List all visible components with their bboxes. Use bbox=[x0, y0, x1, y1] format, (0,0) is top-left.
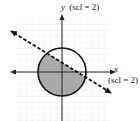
x-axis-scale: (scl = 2) bbox=[108, 75, 138, 85]
coordinate-graph: y (scl = 2) x (scl = 2) bbox=[0, 0, 140, 121]
y-axis-arrow-up-icon bbox=[60, 14, 65, 20]
y-axis-label: y bbox=[60, 2, 65, 12]
y-axis-scale: (scl = 2) bbox=[69, 2, 99, 12]
x-axis-arrow-left-icon bbox=[10, 70, 16, 75]
x-axis-label: x bbox=[113, 64, 118, 74]
y-axis-label-group: y (scl = 2) bbox=[60, 2, 99, 12]
